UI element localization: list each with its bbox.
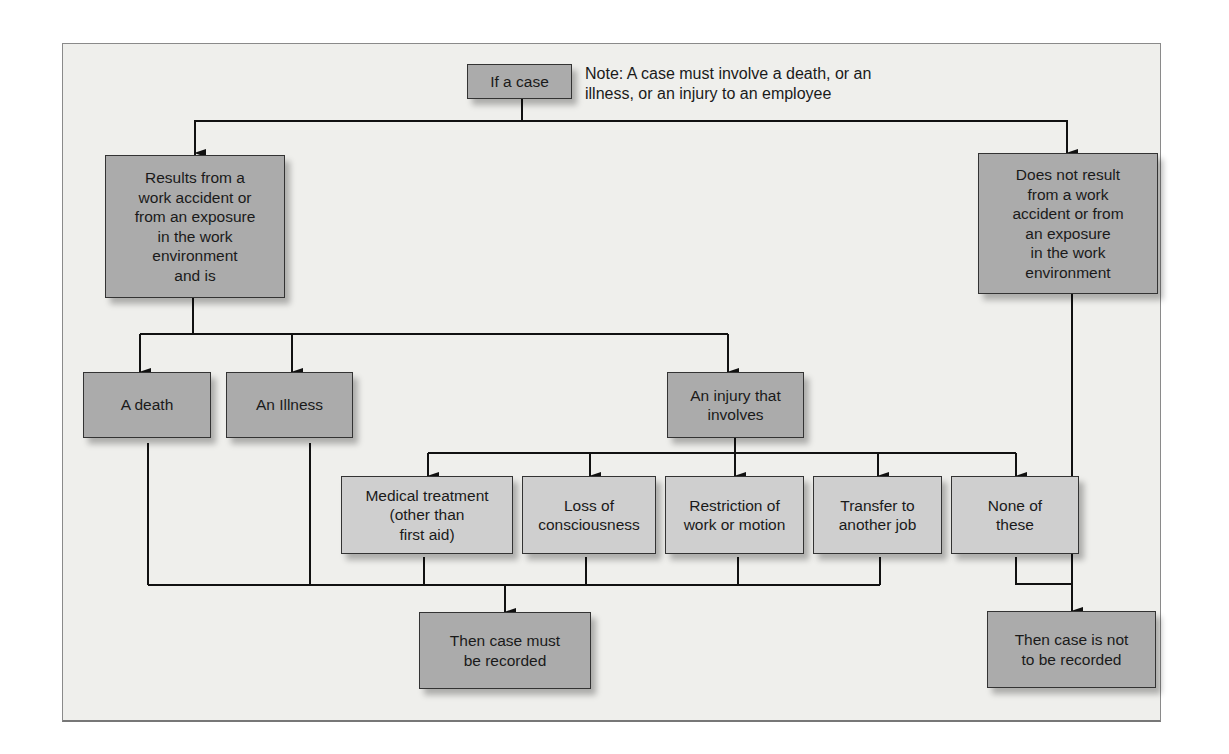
illness-box: An Illness xyxy=(226,372,353,438)
not-recorded-label: Then case is not to be recorded xyxy=(1015,630,1129,669)
medical-treatment-label: Medical treatment (other than first aid) xyxy=(365,486,488,545)
restriction-label: Restriction of work or motion xyxy=(684,496,786,535)
restriction-box: Restriction of work or motion xyxy=(665,476,804,554)
death-box: A death xyxy=(83,372,211,438)
not-work-related-box: Does not result from a work accident or … xyxy=(978,153,1158,294)
start-box: If a case xyxy=(467,64,572,99)
not-recorded-box: Then case is not to be recorded xyxy=(987,611,1156,688)
medical-treatment-box: Medical treatment (other than first aid) xyxy=(341,476,513,554)
loss-of-consciousness-box: Loss of consciousness xyxy=(522,476,656,554)
injury-box: An injury that involves xyxy=(667,372,804,438)
recorded-box: Then case must be recorded xyxy=(419,612,591,689)
not-work-related-label: Does not result from a work accident or … xyxy=(1012,165,1123,282)
none-of-these-box: None of these xyxy=(951,476,1079,554)
illness-label: An Illness xyxy=(256,395,323,415)
work-related-box: Results from a work accident or from an … xyxy=(105,155,285,298)
recorded-label: Then case must be recorded xyxy=(450,631,560,670)
transfer-box: Transfer to another job xyxy=(813,476,942,554)
note-text: Note: A case must involve a death, or an… xyxy=(585,64,871,103)
none-of-these-label: None of these xyxy=(988,496,1042,535)
transfer-label: Transfer to another job xyxy=(839,496,917,535)
work-related-label: Results from a work accident or from an … xyxy=(135,168,256,285)
loss-of-consciousness-label: Loss of consciousness xyxy=(538,496,640,535)
start-label: If a case xyxy=(490,72,549,92)
death-label: A death xyxy=(121,395,174,415)
injury-label: An injury that involves xyxy=(690,386,780,425)
